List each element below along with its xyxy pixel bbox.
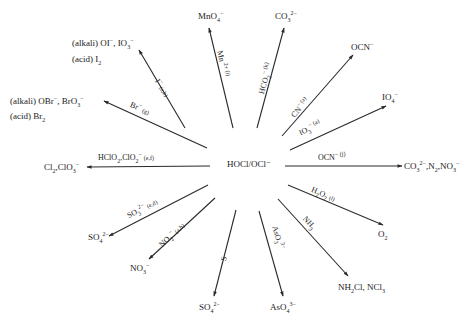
arrow-ammonia <box>278 199 348 276</box>
product-iodide-alkali: (alkali) OI−, IO3− <box>72 39 134 48</box>
product-nitrite: NO3− <box>130 264 149 273</box>
product-sulfur: SO42− <box>199 303 220 312</box>
product-manganese: MnO4− <box>198 12 223 21</box>
arrow-manganese <box>209 28 233 128</box>
product-chlorite: Cl2,ClO3− <box>44 163 79 172</box>
arrow-arsenite <box>259 211 283 296</box>
product-bromide-acid: (acid) Br2 <box>10 112 45 121</box>
center-species: HOCl/OCl⁻ <box>227 160 271 169</box>
reagent-chlorite: HClO2,ClO2− (e,f) <box>98 154 154 162</box>
product-peroxide: O2 <box>378 230 388 239</box>
product-arsenite: AsO43− <box>270 303 296 312</box>
product-bromide-alkali: (alkali) OBr−, BrO3− <box>10 97 84 106</box>
arrow-bromide <box>104 101 207 148</box>
arrow-sulfite <box>109 185 208 236</box>
product-ammonia: NH2Cl, NCl3 <box>338 283 385 292</box>
arrow-sulfur <box>214 210 236 296</box>
arrow-chlorite <box>87 166 210 167</box>
product-iodate: IO4− <box>382 93 398 102</box>
product-cyanide: OCN− <box>351 43 373 52</box>
reagent-cyanate: OCN− (j) <box>318 154 345 162</box>
product-formate: CO32− <box>275 12 297 21</box>
product-sulfite: SO42− <box>88 233 109 242</box>
product-iodide-acid: (acid) I2 <box>72 55 101 64</box>
product-cyanate: CO32−,N2,NO3− <box>404 162 459 171</box>
